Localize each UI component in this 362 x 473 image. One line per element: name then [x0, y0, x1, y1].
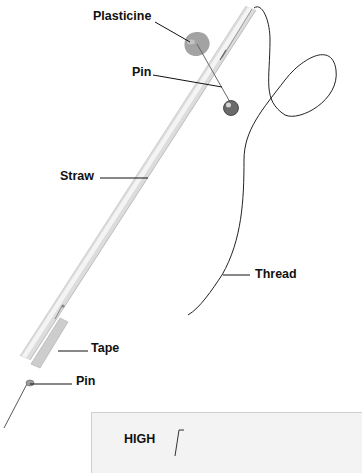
label-thread: Thread — [255, 268, 297, 281]
label-pin-top: Pin — [132, 66, 151, 79]
scale-label-high: HIGH — [124, 432, 155, 446]
label-straw: Straw — [60, 170, 94, 183]
straw — [20, 6, 256, 360]
scale-mark — [172, 428, 202, 468]
label-plasticine: Plasticine — [93, 10, 151, 23]
inset-scale-card: HIGH — [91, 412, 362, 473]
pendulum-ball — [224, 101, 239, 116]
label-pin-bottom: Pin — [76, 375, 95, 388]
label-tape: Tape — [91, 342, 119, 355]
bottom-pin — [4, 380, 34, 428]
